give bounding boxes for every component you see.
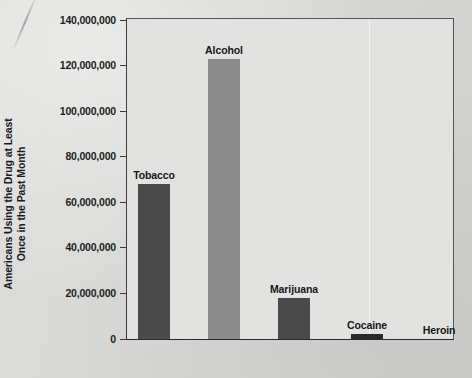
bar-label-heroin: Heroin	[423, 324, 456, 336]
bar-tobacco	[138, 184, 170, 339]
bar-marijuana	[278, 298, 310, 339]
bar-label-cocaine: Cocaine	[347, 319, 387, 331]
bar-cocaine	[351, 334, 383, 339]
y-axis-tick-label: 80,000,000	[65, 150, 116, 162]
y-axis-tick-label: 140,000,000	[60, 14, 116, 26]
bars-layer: TobaccoAlcoholMarijuanaCocaineHeroin	[127, 19, 453, 339]
plot-area: TobaccoAlcoholMarijuanaCocaineHeroin	[126, 18, 454, 340]
y-axis-tick-label: 60,000,000	[65, 196, 116, 208]
bar-label-alcohol: Alcohol	[205, 44, 243, 56]
y-axis-tick-label: 20,000,000	[65, 287, 116, 299]
bar-alcohol	[208, 59, 240, 339]
bar-chart-figure: Americans Using the Drug at Least Once i…	[0, 0, 472, 378]
y-axis-tick-label: 40,000,000	[65, 241, 116, 253]
y-axis-tick-labels: 020,000,00040,000,00060,000,00080,000,00…	[0, 0, 126, 378]
bar-label-marijuana: Marijuana	[270, 283, 318, 295]
bar-label-tobacco: Tobacco	[133, 169, 175, 181]
y-axis-tick-label: 100,000,000	[60, 105, 116, 117]
y-axis-tick-label: 0	[110, 333, 116, 345]
y-axis-tick-label: 120,000,000	[60, 59, 116, 71]
